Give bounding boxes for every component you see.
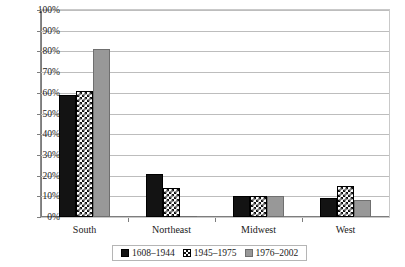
legend-swatch-icon	[183, 249, 191, 257]
legend-item[interactable]: 1608–1944	[121, 248, 175, 258]
bar-group	[128, 10, 215, 217]
bar[interactable]	[180, 216, 197, 218]
chart-legend: 1608–19441945–19751976–2002	[112, 245, 307, 261]
bar-group	[41, 10, 128, 217]
bar[interactable]	[354, 200, 371, 217]
bar[interactable]	[163, 188, 180, 217]
bar-group	[215, 10, 302, 217]
bar[interactable]	[93, 49, 110, 217]
x-axis-tick-mark	[128, 218, 129, 222]
legend-item[interactable]: 1945–1975	[183, 248, 237, 258]
legend-label: 1945–1975	[194, 248, 237, 258]
bar[interactable]	[59, 95, 76, 217]
y-axis-tick-mark	[37, 217, 41, 218]
bar-chart: 0%10%20%30%40%50%60%70%80%90%100% SouthN…	[0, 0, 405, 267]
x-axis-tick-mark	[302, 218, 303, 222]
legend-swatch-icon	[121, 249, 129, 257]
bar-group	[302, 10, 389, 217]
x-axis-tick-label-west: West	[291, 224, 401, 236]
x-axis-tick-mark	[215, 218, 216, 222]
legend-item[interactable]: 1976–2002	[245, 248, 299, 258]
bar[interactable]	[250, 196, 267, 217]
bar[interactable]	[233, 196, 250, 217]
bar[interactable]	[267, 196, 284, 217]
bar[interactable]	[76, 91, 93, 217]
bar[interactable]	[320, 198, 337, 217]
bar[interactable]	[337, 186, 354, 217]
legend-swatch-icon	[245, 249, 253, 257]
bar[interactable]	[146, 174, 163, 217]
bars-layer	[41, 10, 389, 217]
legend-label: 1976–2002	[256, 248, 299, 258]
legend-label: 1608–1944	[132, 248, 175, 258]
